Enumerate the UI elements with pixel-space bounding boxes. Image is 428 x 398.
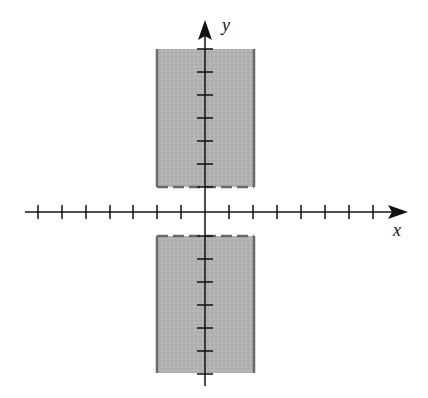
- coordinate-plane: x y: [0, 0, 428, 398]
- x-axis: x: [25, 205, 408, 240]
- y-axis-label: y: [220, 15, 230, 35]
- x-axis-label: x: [392, 220, 401, 240]
